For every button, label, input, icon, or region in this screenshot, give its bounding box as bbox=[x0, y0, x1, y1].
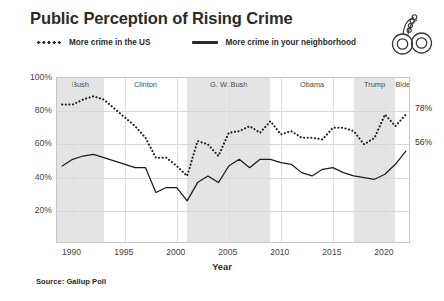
y-tick-100: 100% bbox=[20, 72, 52, 82]
chart-legend: More crime in the US More crime in your … bbox=[36, 38, 356, 47]
legend-item-neighborhood: More crime in your neighborhood bbox=[192, 38, 356, 47]
data-label-neighborhood: 56% bbox=[415, 137, 432, 147]
solid-line-swatch-icon bbox=[192, 41, 218, 44]
x-tick-2000: 2000 bbox=[156, 247, 196, 257]
source-note: Source: Gallup Poll bbox=[36, 277, 106, 286]
y-tick-60: 60% bbox=[20, 138, 52, 148]
legend-label-us: More crime in the US bbox=[69, 38, 150, 47]
plot-area: Bush Clinton G. W. Bush Obama Trump Bide… bbox=[56, 77, 410, 243]
series-line-us bbox=[62, 96, 406, 176]
series-plot bbox=[57, 78, 410, 243]
x-tick-2005: 2005 bbox=[208, 247, 248, 257]
handcuffs-icon bbox=[388, 12, 436, 58]
y-tick-80: 80% bbox=[20, 105, 52, 115]
x-tick-2015: 2015 bbox=[312, 247, 352, 257]
x-tick-2010: 2010 bbox=[260, 247, 300, 257]
x-tick-1990: 1990 bbox=[52, 247, 92, 257]
data-label-us: 78% bbox=[415, 103, 432, 113]
series-line-neighborhood bbox=[62, 151, 406, 201]
y-tick-40: 40% bbox=[20, 172, 52, 182]
x-tick-2020: 2020 bbox=[364, 247, 404, 257]
chart-page: Public Perception of Rising Crime More c… bbox=[0, 0, 444, 301]
page-title: Public Perception of Rising Crime bbox=[30, 9, 293, 28]
y-tick-20: 20% bbox=[20, 205, 52, 215]
legend-label-neighborhood: More crime in your neighborhood bbox=[225, 38, 356, 47]
y-axis: 100% 80% 60% 40% 20% bbox=[14, 0, 52, 301]
legend-item-us: More crime in the US bbox=[36, 38, 150, 47]
x-axis-title: Year bbox=[0, 262, 444, 272]
x-tick-1995: 1995 bbox=[104, 247, 144, 257]
